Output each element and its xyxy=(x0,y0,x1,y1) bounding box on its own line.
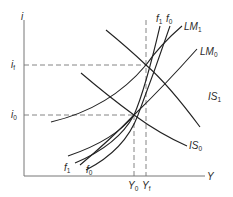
svg-text:Yf: Yf xyxy=(142,180,151,192)
IS1-curve xyxy=(106,30,200,127)
f1-top-label: f1 xyxy=(156,13,163,25)
i0-label: i0 xyxy=(11,109,17,121)
svg-text:LM1: LM1 xyxy=(184,21,202,33)
f1-bottom-label: f1 xyxy=(64,162,71,174)
svg-text:f0: f0 xyxy=(86,164,93,176)
x-axis-label: Y xyxy=(207,171,215,182)
svg-text:f0: f0 xyxy=(166,13,173,25)
LM0-label: LM0 xyxy=(200,46,218,58)
svg-text:Y0: Y0 xyxy=(128,180,139,192)
f0-top-label: f0 xyxy=(166,13,173,25)
LM1-label: LM1 xyxy=(184,21,202,33)
Y0-label: Y0 xyxy=(128,180,139,192)
is-lm-diagram: i Y if i0 Y0 Yf LM1 LM0 IS1 IS0 f1 f0 xyxy=(0,0,233,197)
LM0-curve xyxy=(80,49,197,165)
svg-text:if: if xyxy=(11,59,15,71)
svg-text:f1: f1 xyxy=(156,13,163,25)
y-axis-label: i xyxy=(21,11,24,22)
svg-text:i0: i0 xyxy=(11,109,17,121)
svg-text:f1: f1 xyxy=(64,162,71,174)
IS1-label: IS1 xyxy=(208,91,221,103)
svg-text:IS1: IS1 xyxy=(208,91,221,103)
f0-bottom-label: f0 xyxy=(86,164,93,176)
if-label: if xyxy=(11,59,15,71)
LM1-curve xyxy=(51,26,182,122)
Yf-label: Yf xyxy=(142,180,151,192)
svg-text:IS0: IS0 xyxy=(189,140,202,152)
svg-text:LM0: LM0 xyxy=(200,46,218,58)
IS0-label: IS0 xyxy=(189,140,202,152)
